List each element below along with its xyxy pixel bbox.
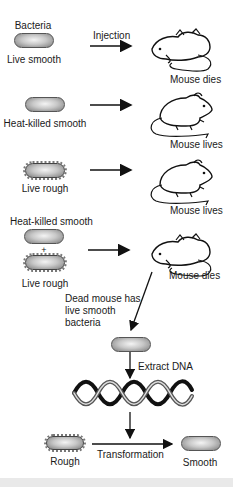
mixed-heat-killed-label: Heat-killed smooth (10, 216, 93, 227)
heat-killed-smooth-bacterium (25, 97, 65, 112)
transformation-label: Transformation (97, 449, 164, 460)
footer-band (0, 478, 233, 487)
smooth-label: Smooth (183, 457, 217, 468)
outcome-4-label: Mouse dies (169, 270, 220, 281)
extract-dna-label: Extract DNA (138, 361, 193, 372)
rough-bacterium (46, 436, 84, 450)
outcome-2-label: Mouse lives (170, 139, 223, 150)
rough-label: Rough (50, 456, 79, 467)
dead-mouse-icon (148, 27, 216, 73)
live-rough-bacterium (25, 163, 65, 178)
outcome-1-label: Mouse dies (170, 74, 221, 85)
dead-mouse-note: Dead mouse has live smooth bacteria (65, 293, 145, 329)
live-rough-label: Live rough (22, 183, 69, 194)
dna-helix-icon (74, 381, 192, 404)
mixed-heat-killed-bacterium (24, 229, 64, 244)
living-mouse-icon-2 (146, 157, 216, 207)
heat-killed-smooth-label: Heat-killed smooth (4, 118, 87, 129)
living-mouse-icon (146, 90, 216, 140)
smooth-bacterium (181, 436, 221, 451)
extracted-smooth-bacterium (111, 337, 151, 352)
mixed-live-rough-bacterium (25, 255, 65, 270)
mixed-live-rough-label: Live rough (22, 278, 69, 289)
outcome-3-label: Mouse lives (170, 205, 223, 216)
